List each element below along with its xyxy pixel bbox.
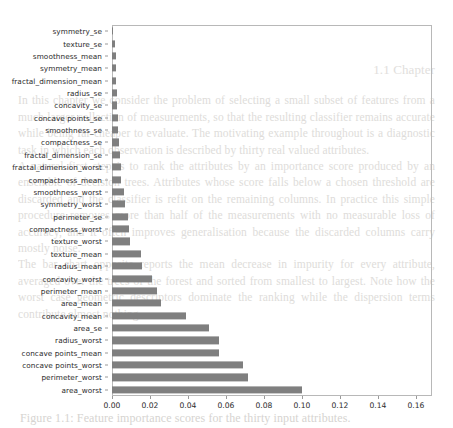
- y-tick-mark: [105, 229, 108, 230]
- bar-row: [112, 359, 432, 371]
- x-tick-label: 0.02: [142, 401, 159, 410]
- bar-row: [112, 25, 432, 37]
- y-tick-mark: [105, 340, 108, 341]
- y-tick-mark: [105, 303, 108, 304]
- y-tick-mark: [105, 389, 108, 390]
- bar-row: [112, 186, 432, 198]
- x-tick-label: 0.10: [293, 401, 310, 410]
- y-tick-label: perimeter_se: [53, 212, 102, 221]
- y-tick-label: texture_worst: [51, 237, 102, 246]
- bar-row: [112, 198, 432, 210]
- y-tick-label: texture_mean: [51, 249, 102, 258]
- y-tick-label: concavity_worst: [42, 274, 102, 283]
- y-tick-mark: [105, 327, 108, 328]
- y-tick-label: concavity_se: [54, 101, 102, 110]
- y-tick-label: fractal_dimension_se: [24, 150, 102, 159]
- y-tick-mark: [105, 290, 108, 291]
- y-tick-label: symmetry_worst: [41, 200, 102, 209]
- bar-concave-points-mean: [112, 349, 219, 356]
- bar-row: [112, 50, 432, 62]
- x-tick-mark: [264, 396, 265, 399]
- y-tick-label: perimeter_mean: [41, 286, 102, 295]
- bar-symmetry-se: [112, 28, 113, 35]
- x-axis-tick-labels: 0.000.020.040.060.080.100.120.140.16: [112, 396, 432, 416]
- bar-concavity-mean: [112, 312, 186, 319]
- y-tick-mark: [105, 154, 108, 155]
- y-tick-label: symmetry_mean: [40, 64, 102, 73]
- bar-texture-worst: [112, 238, 130, 245]
- bar-radius-se: [112, 89, 117, 96]
- x-tick-label: 0.16: [407, 401, 424, 410]
- y-tick-label: compactness_se: [41, 138, 102, 147]
- x-tick-mark: [378, 396, 379, 399]
- y-tick-label: area_mean: [61, 299, 102, 308]
- bar-fractal-dimension-worst: [112, 164, 121, 171]
- y-tick-mark: [105, 315, 108, 316]
- y-tick-mark: [105, 241, 108, 242]
- bar-row: [112, 124, 432, 136]
- bar-row: [112, 149, 432, 161]
- y-tick-label: concave points_se: [34, 113, 102, 122]
- y-tick-mark: [105, 31, 108, 32]
- bar-row: [112, 260, 432, 272]
- x-tick-label: 0.08: [255, 401, 272, 410]
- y-tick-mark: [105, 68, 108, 69]
- x-tick-mark: [416, 396, 417, 399]
- bar-row: [112, 62, 432, 74]
- y-tick-mark: [105, 55, 108, 56]
- y-tick-label: texture_se: [63, 39, 102, 48]
- y-tick-mark: [105, 278, 108, 279]
- y-tick-label: radius_worst: [55, 336, 102, 345]
- bar-area-mean: [112, 300, 161, 307]
- x-tick-mark: [150, 396, 151, 399]
- y-tick-mark: [105, 167, 108, 168]
- bar-row: [112, 161, 432, 173]
- bar-smoothness-se: [112, 127, 118, 134]
- y-tick-mark: [105, 93, 108, 94]
- y-tick-label: perimeter_worst: [41, 373, 102, 382]
- x-tick-label: 0.14: [369, 401, 386, 410]
- bar-concavity-se: [112, 102, 117, 109]
- bar-fractal-dimension-se: [112, 151, 120, 158]
- bar-radius-worst: [112, 337, 219, 344]
- bar-concavity-worst: [112, 275, 152, 282]
- y-tick-label: smoothness_se: [45, 126, 102, 135]
- y-tick-label: symmetry_se: [53, 27, 103, 36]
- feature-importance-bar-chart: symmetry_setexture_sesmoothness_meansymm…: [0, 0, 453, 428]
- y-tick-mark: [105, 80, 108, 81]
- bar-row: [112, 347, 432, 359]
- y-tick-label: smoothness_mean: [33, 51, 102, 60]
- bar-compactness-se: [112, 139, 119, 146]
- bar-row: [112, 384, 432, 396]
- bar-row: [112, 248, 432, 260]
- bar-row: [112, 211, 432, 223]
- y-tick-label: concave points_worst: [22, 361, 102, 370]
- bar-row: [112, 285, 432, 297]
- bar-smoothness-worst: [112, 188, 124, 195]
- bar-fractal-dimension-mean: [112, 77, 116, 84]
- bar-row: [112, 223, 432, 235]
- y-tick-mark: [105, 204, 108, 205]
- x-tick-mark: [226, 396, 227, 399]
- y-tick-label: compactness_mean: [29, 175, 102, 184]
- bar-row: [112, 235, 432, 247]
- y-tick-label: compactness_worst: [29, 225, 102, 234]
- bar-perimeter-se: [112, 213, 128, 220]
- bar-row: [112, 297, 432, 309]
- bar-concave-points-se: [112, 114, 118, 121]
- bar-row: [112, 173, 432, 185]
- bar-row: [112, 309, 432, 321]
- y-tick-mark: [105, 253, 108, 254]
- bar-row: [112, 371, 432, 383]
- y-tick-mark: [105, 179, 108, 180]
- bar-area-se: [112, 324, 209, 331]
- bar-concave-points-worst: [112, 361, 243, 368]
- x-tick-mark: [112, 396, 113, 399]
- x-tick-mark: [188, 396, 189, 399]
- y-axis-tick-labels: symmetry_setexture_sesmoothness_meansymm…: [0, 25, 108, 396]
- y-tick-mark: [105, 43, 108, 44]
- bar-symmetry-worst: [112, 201, 125, 208]
- y-tick-mark: [105, 105, 108, 106]
- bar-perimeter-worst: [112, 374, 248, 381]
- y-tick-label: radius_mean: [55, 262, 102, 271]
